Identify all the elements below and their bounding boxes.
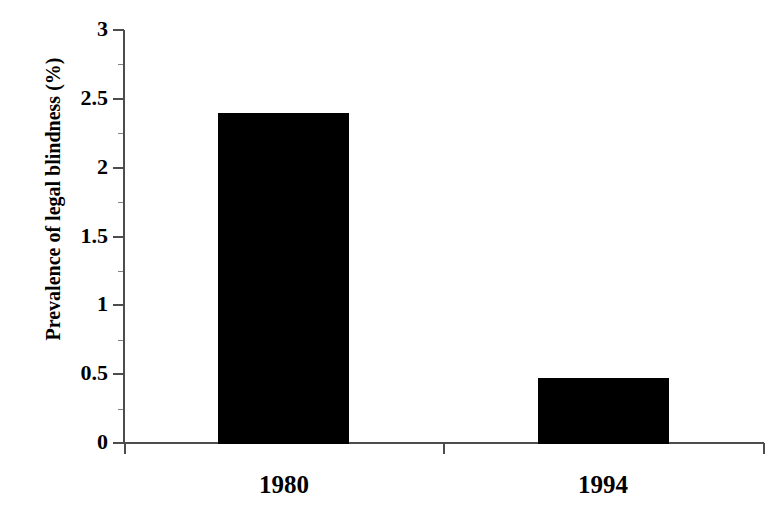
y-tick-label-0: 0 [48,431,108,453]
y-axis-tick-label-group: 3 2.5 2 1.5 1 0.5 0 [40,0,108,522]
y-axis-line [123,30,125,444]
x-tick-mark [124,443,126,454]
y-tick-label-2: 2 [48,156,108,178]
y-tick-label-0-5: 0.5 [48,362,108,384]
x-tick-mark [443,443,445,454]
y-tick-label-3: 3 [48,18,108,40]
bar-1980[interactable] [218,113,349,444]
y-tick-label-1: 1 [48,293,108,315]
bar-chart-figure: Prevalence of legal blindness (%) 3 2.5 … [0,0,781,522]
x-tick-label-1980: 1980 [184,470,384,500]
bar-1994[interactable] [538,378,669,444]
x-tick-mark [763,443,765,454]
y-tick-label-1-5: 1.5 [48,225,108,247]
x-tick-label-1994: 1994 [503,470,703,500]
y-tick-label-2-5: 2.5 [48,87,108,109]
